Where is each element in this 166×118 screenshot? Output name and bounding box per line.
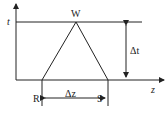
z-axis-label: z bbox=[150, 84, 155, 95]
diagram-canvas: t z W R S Δz Δt bbox=[0, 0, 166, 118]
apex-label-w: W bbox=[71, 8, 81, 19]
t-axis-label: t bbox=[7, 16, 10, 27]
triangle-left-side bbox=[42, 22, 76, 80]
delta-t-label: Δt bbox=[130, 45, 139, 56]
triangle-right-side bbox=[76, 22, 108, 80]
delta-z-label: Δz bbox=[65, 88, 76, 99]
point-label-s: S bbox=[97, 93, 103, 104]
point-label-r: R bbox=[33, 93, 40, 104]
